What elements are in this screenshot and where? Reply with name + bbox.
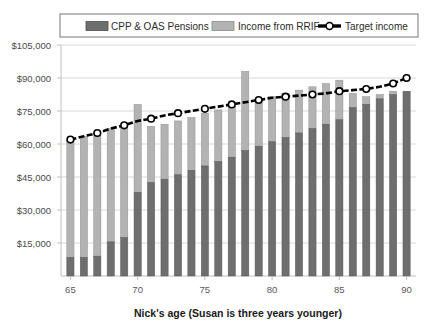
bar-segment-pensions <box>390 95 397 277</box>
bar-segment-pensions <box>282 137 289 276</box>
bar-segment-rrif <box>94 133 101 256</box>
target-income-marker <box>175 110 182 117</box>
y-axis-tick-label: $75,000 <box>17 106 51 117</box>
target-income-marker <box>255 97 262 104</box>
bar-segment-pensions <box>403 91 410 276</box>
bar-segment-pensions <box>322 124 329 276</box>
target-income-marker <box>403 75 410 82</box>
retirement-income-chart: $15,000$30,000$45,000$60,000$75,000$90,0… <box>0 0 432 327</box>
y-axis-tick-label: $45,000 <box>17 172 51 183</box>
bar-segment-pensions <box>363 104 370 276</box>
y-axis-tick-label: $60,000 <box>17 139 51 150</box>
bar-segment-pensions <box>121 238 128 277</box>
bar-segment-pensions <box>269 142 276 276</box>
bar-segment-pensions <box>80 257 87 276</box>
bar-segment-rrif <box>174 121 181 175</box>
target-income-marker <box>390 80 397 87</box>
bar-segment-pensions <box>201 166 208 276</box>
bar-segment-rrif <box>228 107 235 158</box>
bar-segment-pensions <box>94 256 101 276</box>
y-axis-tick-label: $90,000 <box>17 73 51 84</box>
bar-segment-rrif <box>363 97 370 105</box>
y-axis-tick-label: $30,000 <box>17 205 51 216</box>
bar-segment-pensions <box>349 108 356 276</box>
bar-segment-pensions <box>255 146 262 276</box>
y-axis-tick-labels: $15,000$30,000$45,000$60,000$75,000$90,0… <box>11 40 51 249</box>
chart-container: $15,000$30,000$45,000$60,000$75,000$90,0… <box>0 0 432 327</box>
bar-segment-pensions <box>174 175 181 276</box>
bar-segment-pensions <box>295 133 302 276</box>
bar-segment-rrif <box>269 97 276 142</box>
target-income-marker <box>363 86 370 93</box>
target-income-marker <box>336 88 343 95</box>
bar-segment-pensions <box>228 157 235 276</box>
bar-segment-rrif <box>215 110 222 162</box>
x-axis-tick-label: 65 <box>65 284 76 295</box>
x-axis-title: Nick's age (Susan is three years younger… <box>134 307 342 319</box>
bar-segment-rrif <box>376 95 383 99</box>
bar-segment-pensions <box>67 257 74 276</box>
x-axis-tick-marks <box>70 276 406 280</box>
y-axis-tick-label: $105,000 <box>11 40 51 51</box>
legend-swatch-rrif <box>212 22 234 31</box>
target-income-marker <box>228 101 235 108</box>
target-income-marker <box>94 130 101 137</box>
legend-label-pensions: CPP & OAS Pensions <box>111 21 209 32</box>
bar-segment-rrif <box>147 126 154 182</box>
target-income-marker <box>148 115 155 122</box>
chart-legend: CPP & OAS Pensions Income from RRIF Targ… <box>60 14 418 37</box>
bar-segment-pensions <box>309 129 316 276</box>
target-income-marker <box>121 122 128 129</box>
x-axis-tick-label: 90 <box>401 284 412 295</box>
bar-segment-pensions <box>188 170 195 276</box>
bar-segment-rrif <box>107 129 114 242</box>
bar-segment-rrif <box>134 104 141 192</box>
x-axis-tick-label: 70 <box>132 284 143 295</box>
legend-swatch-pensions <box>86 22 108 31</box>
bar-segment-rrif <box>336 80 343 120</box>
legend-label-rrif: Income from RRIF <box>238 21 320 32</box>
bar-segment-rrif <box>242 71 249 150</box>
bar-segment-pensions <box>376 99 383 276</box>
target-income-marker <box>202 106 209 113</box>
x-axis-tick-label: 80 <box>267 284 278 295</box>
target-income-marker <box>67 136 74 143</box>
bar-segment-pensions <box>134 192 141 276</box>
y-axis-tick-label: $15,000 <box>17 238 51 249</box>
bar-segment-pensions <box>147 183 154 277</box>
bar-segment-pensions <box>242 151 249 276</box>
bar-segment-rrif <box>349 93 356 107</box>
bar-segment-rrif <box>188 118 195 171</box>
bar-segment-rrif <box>161 124 168 179</box>
bar-segment-rrif <box>201 113 208 166</box>
x-axis-tick-label: 75 <box>200 284 211 295</box>
bar-segment-pensions <box>336 120 343 276</box>
y-axis-tick-marks <box>57 45 61 243</box>
legend-label-target: Target income <box>345 21 408 32</box>
bar-segment-pensions <box>161 179 168 276</box>
bar-segment-rrif <box>255 100 262 146</box>
target-income-marker <box>309 91 316 98</box>
bar-segment-rrif <box>121 125 128 237</box>
bar-segment-rrif <box>80 136 87 257</box>
bar-segment-pensions <box>107 242 114 276</box>
bar-segment-rrif <box>322 84 329 125</box>
x-axis-tick-label: 85 <box>334 284 345 295</box>
bar-segment-rrif <box>390 91 397 94</box>
x-axis-tick-labels: 657075808590 <box>65 284 412 295</box>
bar-segment-rrif <box>67 140 74 258</box>
bar-segment-pensions <box>215 162 222 276</box>
target-income-marker <box>282 93 289 100</box>
